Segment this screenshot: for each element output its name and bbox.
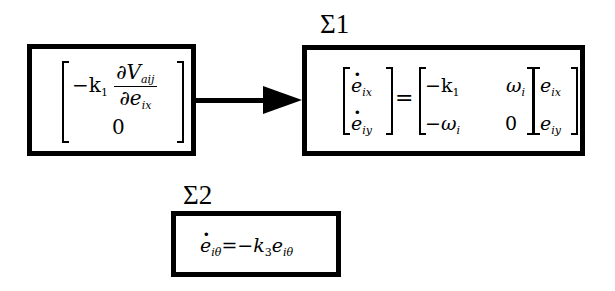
sigma2-equation: eiθ=−k3eiθ <box>200 234 293 259</box>
lhs-left-bracket <box>343 67 350 135</box>
system-matrix: −k1 ωi −ωi 0 <box>425 70 525 146</box>
sigma2-block: eiθ=−k3eiθ <box>171 211 341 277</box>
sigma1-label: Σ1 <box>320 11 349 38</box>
input-block: −k1 ∂Vaij ∂eix 0 <box>27 44 196 156</box>
partial-fraction: ∂Vaij ∂eix <box>114 61 156 112</box>
input-row2: 0 <box>112 115 125 139</box>
rhs-left-bracket <box>533 67 540 135</box>
rhs-vector: eix eiy <box>540 70 561 146</box>
rhs-right-bracket <box>571 67 578 135</box>
input-row1: −k1 ∂Vaij ∂eix <box>72 61 157 112</box>
right-bracket <box>177 61 184 143</box>
lhs-vector: eix eiy <box>351 70 372 146</box>
sigma1-block: eix eiy = −k1 ωi −ωi 0 eix eiy <box>302 45 585 156</box>
equals-sign: = <box>395 85 413 110</box>
lhs-right-bracket <box>386 67 393 135</box>
arrow-head-icon <box>263 86 302 114</box>
sigma2-label: Σ2 <box>183 182 212 209</box>
left-bracket <box>62 61 69 143</box>
arrow-line <box>196 98 266 103</box>
